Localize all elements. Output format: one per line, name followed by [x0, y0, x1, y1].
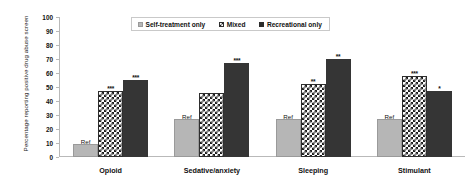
reference-label: Ref	[175, 113, 198, 120]
bar: ***	[402, 76, 427, 157]
bar-group-bars: Ref****	[263, 17, 364, 157]
bar: ***	[224, 63, 249, 157]
bar-group-bars: Ref****	[364, 17, 465, 157]
significance-marker: ***	[124, 74, 147, 81]
legend-item: Recreational only	[259, 21, 321, 28]
bar: Ref	[276, 119, 301, 157]
legend-item: Mixed	[219, 21, 245, 28]
x-axis-category-labels: OpioidSedative/anxietySleepingStimulant	[60, 166, 465, 175]
bar-group: Ref***	[161, 17, 262, 157]
significance-marker: **	[327, 53, 350, 60]
bar: Ref	[377, 119, 402, 157]
y-axis-tick-label: 0	[33, 154, 53, 161]
bar-slot: **	[301, 17, 326, 157]
reference-label: Ref	[378, 113, 401, 120]
bar-group: Ref******	[60, 17, 161, 157]
y-axis-tick-label: 80	[33, 42, 53, 49]
checkered-square-icon	[219, 22, 224, 27]
bar-chart: Percentage reporting positive drug abuse…	[0, 0, 475, 189]
bar-groups: Ref******Ref***Ref****Ref****	[60, 17, 465, 157]
y-axis-tick-mark	[56, 73, 59, 74]
bar-slot: *	[427, 17, 452, 157]
bar-slot: Ref	[377, 17, 402, 157]
y-axis-tick-mark	[56, 59, 59, 60]
bar: ***	[98, 91, 123, 157]
legend-item-label: Mixed	[227, 21, 246, 28]
legend-item-label: Recreational only	[267, 21, 322, 28]
y-axis-tick-label: 40	[33, 98, 53, 105]
y-axis-tick-label: 100	[33, 14, 53, 21]
significance-marker: ***	[403, 70, 426, 77]
y-axis-tick-mark	[56, 129, 59, 130]
y-axis-tick-mark	[56, 115, 59, 116]
y-axis-tick-mark	[56, 31, 59, 32]
bar: **	[326, 59, 351, 157]
significance-marker: ***	[99, 85, 122, 92]
y-axis-tick-label: 90	[33, 28, 53, 35]
y-axis-tick-mark	[56, 17, 59, 18]
bar-slot: Ref	[73, 17, 98, 157]
chart-legend: Self-treatment onlyMixedRecreational onl…	[131, 17, 330, 31]
y-axis-tick-mark	[56, 45, 59, 46]
bar	[199, 93, 224, 157]
light-gray-square-icon	[138, 22, 143, 27]
y-axis-tick-mark	[56, 143, 59, 144]
significance-marker: *	[428, 85, 451, 92]
significance-marker: ***	[225, 57, 248, 64]
reference-label: Ref	[74, 138, 97, 145]
y-axis-tick-label: 50	[33, 84, 53, 91]
bar-group-bars: Ref******	[60, 17, 161, 157]
y-axis-tick-mark	[56, 87, 59, 88]
bar-slot: **	[326, 17, 351, 157]
bar: ***	[123, 80, 148, 157]
x-axis-category-label: Opioid	[60, 166, 161, 175]
y-axis-title: Percentage reporting positive drug abuse…	[22, 11, 29, 156]
bar-slot: Ref	[174, 17, 199, 157]
bar-slot	[199, 17, 224, 157]
significance-marker: **	[302, 78, 325, 85]
bar-slot: Ref	[276, 17, 301, 157]
bar-group: Ref****	[364, 17, 465, 157]
bar: *	[427, 91, 452, 157]
legend-item: Self-treatment only	[138, 21, 205, 28]
y-axis-tick-mark	[56, 157, 59, 158]
reference-label: Ref	[277, 113, 300, 120]
plot-area: 0102030405060708090100 Ref******Ref***Re…	[59, 17, 465, 157]
bar-slot: ***	[123, 17, 148, 157]
bar-slot: ***	[98, 17, 123, 157]
bar: Ref	[73, 144, 98, 157]
y-axis-tick-mark	[56, 101, 59, 102]
y-axis-tick-label: 70	[33, 56, 53, 63]
x-axis-category-label: Stimulant	[364, 166, 465, 175]
y-axis-tick-label: 60	[33, 70, 53, 77]
bar-group-bars: Ref***	[161, 17, 262, 157]
bar-slot: ***	[224, 17, 249, 157]
black-square-icon	[259, 22, 264, 27]
y-axis-tick-label: 20	[33, 126, 53, 133]
bar-slot: ***	[402, 17, 427, 157]
y-axis-tick-label: 10	[33, 140, 53, 147]
y-axis-tick-label: 30	[33, 112, 53, 119]
x-axis-category-label: Sleeping	[263, 166, 364, 175]
x-axis-category-label: Sedative/anxiety	[161, 166, 262, 175]
bar-group: Ref****	[263, 17, 364, 157]
bar: **	[301, 84, 326, 157]
legend-item-label: Self-treatment only	[146, 21, 206, 28]
bar: Ref	[174, 119, 199, 157]
